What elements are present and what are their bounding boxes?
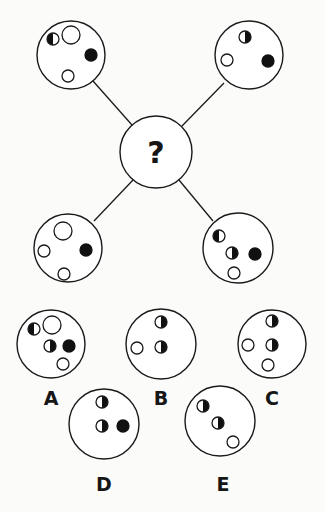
half-right-black-dot-icon xyxy=(226,247,238,259)
puzzle-diagram: ? ABCDE xyxy=(0,0,325,512)
option-d[interactable]: D xyxy=(69,389,139,495)
white-dot-icon xyxy=(62,70,74,82)
option-label: A xyxy=(44,387,59,409)
white-dot-icon xyxy=(242,339,254,351)
option-label: B xyxy=(154,387,168,409)
half-right-black-dot-icon xyxy=(266,339,278,351)
circle-bottom-left xyxy=(34,214,102,282)
half-left-black-dot-icon xyxy=(213,230,225,242)
white-dot-icon xyxy=(38,245,50,257)
white-dot-icon xyxy=(221,54,233,66)
option-label: E xyxy=(217,473,230,495)
white-dot-icon xyxy=(62,26,80,44)
black-dot-icon xyxy=(85,49,97,61)
puzzle-canvas: ? ABCDE xyxy=(0,0,325,512)
black-dot-icon xyxy=(80,244,92,256)
white-dot-icon xyxy=(131,342,143,354)
circle-top-left xyxy=(37,21,105,89)
question-mark: ? xyxy=(147,135,164,170)
half-right-black-dot-icon xyxy=(155,341,167,353)
white-dot-icon xyxy=(227,436,239,448)
black-dot-icon xyxy=(249,248,261,260)
white-dot-icon xyxy=(228,267,240,279)
white-dot-icon xyxy=(262,359,274,371)
circle-top-right xyxy=(215,21,283,89)
option-a[interactable]: A xyxy=(17,310,85,409)
white-dot-icon xyxy=(57,358,69,370)
half-right-black-dot-icon xyxy=(197,400,209,412)
half-right-black-dot-icon xyxy=(96,396,108,408)
connector-top-right xyxy=(182,83,224,126)
half-left-black-dot-icon xyxy=(28,323,40,335)
black-dot-icon xyxy=(117,420,129,432)
half-right-black-dot-icon xyxy=(44,340,56,352)
half-left-black-dot-icon xyxy=(47,33,59,45)
white-dot-icon xyxy=(58,268,70,280)
answer-options: ABCDE xyxy=(17,309,306,495)
half-right-black-dot-icon xyxy=(155,316,167,328)
center-question-circle: ? xyxy=(120,116,192,188)
option-e[interactable]: E xyxy=(185,386,255,495)
option-b[interactable]: B xyxy=(126,309,196,409)
circle-bottom-right xyxy=(203,213,273,283)
connector-bottom-left xyxy=(94,180,133,221)
connector-top-left xyxy=(93,81,132,125)
half-right-black-dot-icon xyxy=(266,315,278,327)
option-c[interactable]: C xyxy=(238,310,306,409)
half-right-black-dot-icon xyxy=(239,31,251,43)
white-dot-icon xyxy=(43,316,61,334)
white-dot-icon xyxy=(54,222,72,240)
connector-bottom-right xyxy=(179,180,213,221)
option-label: D xyxy=(96,473,112,495)
black-dot-icon xyxy=(262,55,274,67)
black-dot-icon xyxy=(63,340,75,352)
half-right-black-dot-icon xyxy=(96,420,108,432)
option-label: C xyxy=(265,387,279,409)
half-right-black-dot-icon xyxy=(212,417,224,429)
